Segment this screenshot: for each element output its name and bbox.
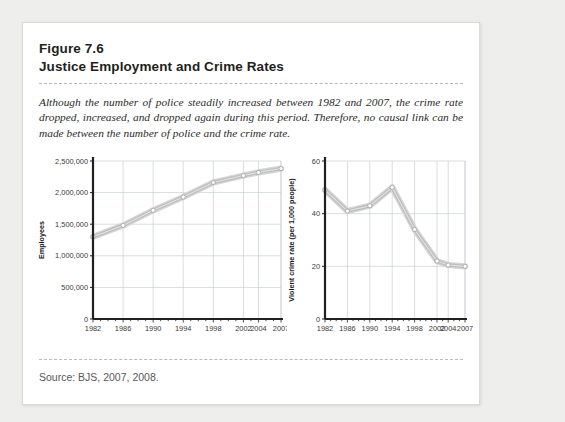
chart-justice-employment: 0500,0001,000,0001,500,0002,000,0002,500… [35, 151, 287, 341]
svg-text:0: 0 [84, 315, 88, 324]
svg-text:1994: 1994 [175, 324, 191, 333]
svg-text:2002: 2002 [235, 324, 251, 333]
svg-text:1998: 1998 [406, 324, 422, 333]
chart-violent-crime-rate: 020406019821986199019941998200220042007V… [285, 151, 475, 341]
svg-text:1982: 1982 [85, 324, 101, 333]
svg-text:0: 0 [316, 315, 320, 324]
figure-page: Figure 7.6 Justice Employment and Crime … [0, 0, 565, 422]
svg-text:Violent crime rate (per 1,000: Violent crime rate (per 1,000 people) [287, 178, 296, 302]
divider-bottom [39, 359, 463, 360]
svg-text:1982: 1982 [317, 324, 333, 333]
svg-text:2,500,000: 2,500,000 [55, 157, 88, 166]
svg-text:2007: 2007 [457, 324, 473, 333]
svg-text:1994: 1994 [384, 324, 400, 333]
page-title: Justice Employment and Crime Rates [39, 59, 284, 74]
source-note: Source: BJS, 2007, 2008. [39, 371, 159, 383]
svg-text:1,500,000: 1,500,000 [55, 220, 88, 229]
svg-text:1990: 1990 [145, 324, 161, 333]
svg-text:1986: 1986 [339, 324, 355, 333]
figure-caption: Although the number of police steadily i… [39, 95, 463, 141]
svg-text:500,000: 500,000 [61, 283, 88, 292]
svg-text:1990: 1990 [362, 324, 378, 333]
svg-text:Employees: Employees [37, 221, 46, 259]
figure-number: Figure 7.6 [39, 41, 104, 56]
svg-text:1986: 1986 [115, 324, 131, 333]
svg-text:20: 20 [312, 262, 320, 271]
svg-text:2004: 2004 [250, 324, 266, 333]
svg-text:1,000,000: 1,000,000 [55, 251, 88, 260]
divider-top [39, 83, 463, 84]
svg-text:1998: 1998 [205, 324, 221, 333]
svg-text:2,000,000: 2,000,000 [55, 188, 88, 197]
svg-text:40: 40 [312, 209, 320, 218]
svg-text:2004: 2004 [440, 324, 456, 333]
svg-text:60: 60 [312, 157, 320, 166]
figure-card: Figure 7.6 Justice Employment and Crime … [22, 22, 480, 405]
